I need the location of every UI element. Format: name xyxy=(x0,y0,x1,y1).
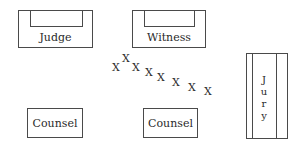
witness-stand: Witness xyxy=(132,10,206,48)
counsel-left-label: Counsel xyxy=(28,117,82,130)
counsel-table-left: Counsel xyxy=(27,108,83,138)
witness-label: Witness xyxy=(133,31,205,44)
jury-box: J u r y xyxy=(246,53,288,139)
judge-label: Judge xyxy=(19,31,92,44)
judge-bench: Judge xyxy=(18,10,93,48)
path-marker: X xyxy=(172,77,180,88)
path-marker: X xyxy=(145,67,153,78)
jury-label: J u r y xyxy=(241,74,287,122)
jury-letter: J xyxy=(241,74,287,86)
jury-letter: r xyxy=(241,98,287,110)
jury-letter: y xyxy=(241,110,287,122)
counsel-table-right: Counsel xyxy=(143,108,198,138)
counsel-right-label: Counsel xyxy=(144,117,197,130)
witness-stand-inner xyxy=(144,10,195,27)
jury-letter: u xyxy=(241,86,287,98)
path-marker: X xyxy=(204,86,212,97)
judge-bench-inner xyxy=(30,10,83,27)
path-marker: X xyxy=(132,62,140,73)
path-marker: X xyxy=(157,72,165,83)
path-marker: X xyxy=(188,82,196,93)
path-marker: X xyxy=(122,53,130,64)
path-marker: X xyxy=(112,62,120,73)
